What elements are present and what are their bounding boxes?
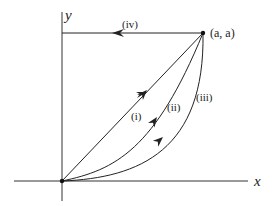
path-iv-label: (iv): [122, 18, 138, 31]
x-axis-label: x: [253, 173, 261, 189]
origin-point: [60, 179, 64, 183]
path-iii-arrowhead-icon: [153, 134, 166, 147]
path-ii-label: (ii): [167, 101, 181, 114]
path-ii-arrowhead-icon: [148, 115, 160, 128]
path-i-arrowhead-icon: [137, 87, 150, 100]
path-i-label: (i): [131, 110, 142, 123]
y-axis-label: y: [63, 7, 72, 23]
path-iii-label: (iii): [196, 91, 213, 104]
diagram-canvas: y x (a, a) (iv) (i) (ii) (iii): [0, 0, 275, 206]
endpoint-label: (a, a): [210, 26, 235, 40]
endpoint-point: [201, 31, 205, 35]
path-i-line: [62, 33, 203, 181]
